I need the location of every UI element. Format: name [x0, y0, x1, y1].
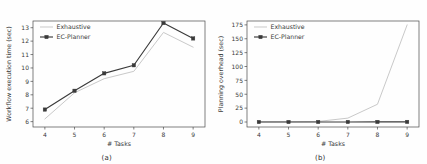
- y-axis-tick-label: 9: [25, 78, 29, 85]
- x-axis-tick-label: 9: [191, 131, 195, 138]
- chart-panel-b: 0255075100125150175456789# TasksPlanning…: [214, 0, 427, 164]
- data-point-marker: [286, 120, 289, 123]
- x-axis-tick-label: 4: [43, 131, 47, 138]
- x-axis-tick-label: 7: [132, 131, 136, 138]
- data-point-marker: [375, 120, 378, 123]
- legend-marker: [45, 35, 48, 38]
- data-point-marker: [257, 120, 260, 123]
- x-axis-title: # Tasks: [320, 140, 344, 147]
- figure-container: 678910111213456789# TasksWorkflow execut…: [0, 0, 427, 164]
- data-point-marker: [346, 120, 349, 123]
- y-axis-tick-label: 100: [231, 63, 243, 70]
- y-axis-tick-label: 11: [21, 51, 29, 58]
- data-point-marker: [405, 120, 408, 123]
- chart-panel-a: 678910111213456789# TasksWorkflow execut…: [0, 0, 214, 164]
- subfigure-caption-b: (b): [214, 154, 427, 162]
- x-axis-tick-label: 8: [162, 131, 166, 138]
- chart-a-svg: 678910111213456789# TasksWorkflow execut…: [0, 0, 214, 164]
- chart-b-svg: 0255075100125150175456789# TasksPlanning…: [214, 0, 427, 164]
- y-axis-tick-label: 150: [231, 35, 243, 42]
- data-point-marker: [102, 72, 105, 75]
- x-axis-tick-label: 6: [316, 131, 320, 138]
- y-axis-tick-label: 12: [21, 37, 29, 44]
- data-point-marker: [316, 120, 319, 123]
- y-axis-tick-label: 25: [235, 104, 243, 111]
- x-axis-tick-label: 9: [405, 131, 409, 138]
- data-point-marker: [43, 108, 46, 111]
- y-axis-tick-label: 0: [239, 118, 243, 125]
- y-axis-tick-label: 50: [235, 91, 243, 98]
- data-point-marker: [73, 89, 76, 92]
- y-axis-tick-label: 10: [21, 64, 29, 71]
- x-axis-tick-label: 6: [102, 131, 106, 138]
- subfigure-caption-a: (a): [0, 154, 214, 162]
- legend-label-ec-planner: EC-Planner: [270, 33, 304, 40]
- x-axis-title: # Tasks: [107, 140, 131, 147]
- legend-label-exhaustive: Exhaustive: [270, 23, 304, 30]
- y-axis-title: Planning overhead (sec): [217, 36, 225, 112]
- y-axis-tick-label: 125: [231, 49, 243, 56]
- series-line-exhaustive: [45, 32, 193, 119]
- x-axis-tick-label: 8: [375, 131, 379, 138]
- data-point-marker: [162, 21, 165, 24]
- data-point-marker: [191, 37, 194, 40]
- y-axis-tick-label: 7: [25, 105, 29, 112]
- x-axis-tick-label: 5: [73, 131, 77, 138]
- legend-label-exhaustive: Exhaustive: [57, 23, 91, 30]
- y-axis-tick-label: 175: [231, 21, 243, 28]
- data-point-marker: [132, 64, 135, 67]
- x-axis-tick-label: 5: [286, 131, 290, 138]
- legend-label-ec-planner: EC-Planner: [57, 33, 91, 40]
- y-axis-title: Workflow execution time (sec): [5, 26, 12, 121]
- y-axis-tick-label: 75: [235, 77, 243, 84]
- y-axis-tick-label: 6: [25, 118, 29, 125]
- x-axis-tick-label: 4: [256, 131, 260, 138]
- legend-marker: [258, 35, 261, 38]
- y-axis-tick-label: 13: [21, 24, 29, 31]
- x-axis-tick-label: 7: [345, 131, 349, 138]
- y-axis-tick-label: 8: [25, 91, 29, 98]
